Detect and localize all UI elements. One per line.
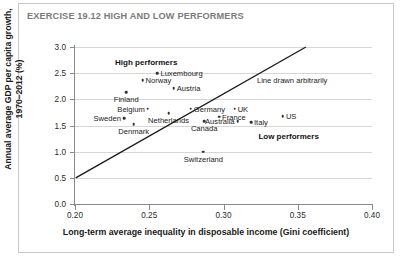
- data-point-label: US: [286, 112, 297, 121]
- x-axis-tick: [75, 205, 76, 210]
- data-point-marker: [141, 79, 144, 82]
- data-point-marker: [167, 112, 170, 115]
- data-point-marker: [132, 123, 135, 126]
- region-label: High performers: [115, 58, 177, 67]
- y-axis-tick-label: 0.0: [44, 200, 66, 209]
- data-point-marker: [236, 120, 239, 123]
- data-point-marker: [190, 107, 193, 110]
- data-point-marker: [172, 87, 175, 90]
- region-label: Low performers: [258, 132, 318, 141]
- data-point-label: Germany: [194, 105, 225, 114]
- data-point-marker: [125, 91, 128, 94]
- data-point-label: Australia: [205, 117, 235, 126]
- y-axis-title-line2: 1970–2012 (%): [14, 60, 24, 119]
- x-axis-tick-label: 0.20: [55, 211, 95, 220]
- data-point-label: Sweden: [94, 114, 121, 123]
- data-point-marker: [282, 115, 285, 118]
- y-axis-tick-label: 3.0: [44, 43, 66, 52]
- data-point-label: Norway: [146, 76, 172, 85]
- x-axis-tick: [149, 205, 150, 210]
- figure-root: EXERCISE 19.12 HIGH AND LOW PERFORMERS A…: [0, 0, 413, 258]
- x-axis-tick: [298, 205, 299, 210]
- data-point-label: Belgium: [117, 105, 144, 114]
- y-axis-tick-label: 2.0: [44, 95, 66, 104]
- data-point-label: Switzerland: [184, 155, 223, 164]
- data-point-label: Finland: [114, 95, 139, 104]
- data-point-marker: [123, 117, 126, 120]
- data-point-label: Denmark: [118, 127, 149, 136]
- data-point-marker: [250, 121, 253, 124]
- data-point-marker: [233, 107, 236, 110]
- y-axis-title: Annual average GDP per capita growth, 19…: [3, 0, 25, 199]
- x-axis-title: Long-term average inequality in disposab…: [30, 227, 382, 237]
- data-point-label: Austria: [177, 84, 201, 93]
- y-axis-tick-label: 1.0: [44, 147, 66, 156]
- y-axis-title-line1: Annual average GDP per capita growth,: [3, 8, 13, 169]
- trend-line-note: Line drawn arbitrarily: [257, 76, 327, 85]
- y-axis-tick-label: 2.5: [44, 69, 66, 78]
- y-axis-tick-label: 0.5: [44, 173, 66, 182]
- x-axis-tick-label: 0.35: [278, 211, 318, 220]
- x-axis-tick-label: 0.40: [352, 211, 392, 220]
- page-title: EXERCISE 19.12 HIGH AND LOW PERFORMERS: [27, 11, 244, 21]
- x-axis-tick: [372, 205, 373, 210]
- data-point-marker: [146, 107, 149, 110]
- y-axis-tick-label: 1.5: [44, 121, 66, 130]
- x-axis-tick-label: 0.25: [129, 211, 169, 220]
- data-point-marker: [202, 150, 205, 153]
- x-axis-tick: [224, 205, 225, 210]
- data-point-label: Netherlands: [148, 116, 189, 125]
- data-point-marker: [156, 72, 159, 75]
- plot-area: LuxembourgNorwayAustriaFinlandGermanyBel…: [75, 47, 372, 204]
- data-point-label: Italy: [254, 118, 268, 127]
- x-axis-tick-label: 0.30: [204, 211, 244, 220]
